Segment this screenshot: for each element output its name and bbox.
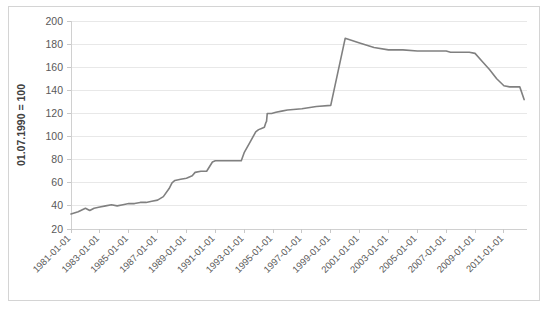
y-tick-label: 180 [45,38,63,50]
y-tick-label: 20 [51,223,63,235]
y-tick-label: 160 [45,61,63,73]
y-tick-label: 120 [45,107,63,119]
x-axis-tick-labels: 1981-01-011983-01-011985-01-011987-01-01… [30,233,505,275]
data-series-line [71,38,524,214]
y-tick-label: 40 [51,199,63,211]
line-chart: 20406080100120140160180200 1981-01-01198… [9,7,539,300]
y-axis-tick-marks [67,21,71,229]
y-tick-label: 60 [51,176,63,188]
chart-frame: 20406080100120140160180200 1981-01-01198… [8,6,540,301]
y-axis-tick-labels: 20406080100120140160180200 [45,15,63,235]
y-tick-label: 200 [45,15,63,27]
y-axis-title: 01.07.1990 = 100 [15,84,27,166]
y-tick-label: 80 [51,153,63,165]
y-tick-label: 140 [45,84,63,96]
y-tick-label: 100 [45,130,63,142]
